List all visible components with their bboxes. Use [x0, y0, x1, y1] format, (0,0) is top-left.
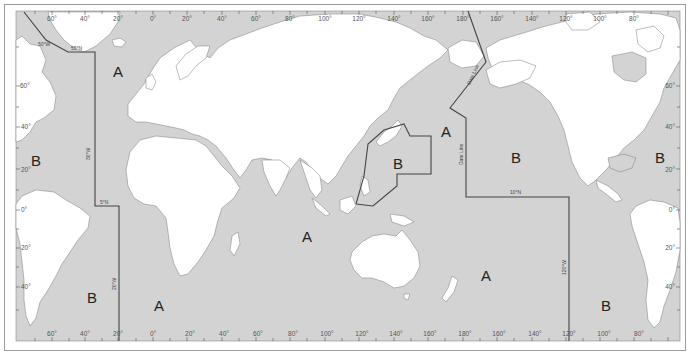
tick-label: 40°	[80, 330, 90, 337]
zone-label: A	[302, 228, 312, 245]
zone-label: A	[113, 63, 123, 80]
tick-label: 60°	[20, 82, 30, 89]
tick-label: 80°	[288, 330, 298, 337]
tick-label: 60°	[665, 82, 675, 89]
tick-label: 140°	[387, 15, 401, 22]
tick-label: 0°	[669, 206, 676, 213]
tick-label: 80°	[285, 15, 295, 22]
tick-label: 20°	[665, 166, 675, 173]
tick-label: 60°	[47, 15, 57, 22]
tick-label: 80°	[629, 15, 639, 22]
label-120w: 120°W	[561, 260, 567, 275]
zone-label: A	[441, 123, 451, 140]
tick-label: 60°	[47, 330, 57, 337]
tick-label: 180°	[458, 330, 472, 337]
tick-label: 80°	[634, 330, 644, 337]
tick-label: 40°	[665, 283, 675, 290]
tick-label: 40°	[21, 123, 31, 130]
tick-label: 100°	[593, 15, 607, 22]
world-map: 55°N 30°W 5°N 20°W Date Line Date Line 1…	[0, 0, 691, 355]
tick-label: 140°	[525, 15, 539, 22]
tick-label: 140°	[528, 330, 542, 337]
tick-label: 180°	[456, 15, 470, 22]
tick-label: 20°	[113, 330, 123, 337]
zone-label: B	[31, 152, 41, 169]
label-30w: 30°W	[85, 147, 91, 160]
zone-label: B	[655, 149, 665, 166]
tick-label: 20°	[185, 330, 195, 337]
zone-label: A	[154, 297, 164, 314]
tick-label: 160°	[490, 15, 504, 22]
tick-label: 0°	[21, 206, 28, 213]
tick-label: 100°	[318, 15, 332, 22]
tick-label: 60°	[253, 330, 263, 337]
tick-label: 0°	[150, 15, 157, 22]
tick-label: 20°	[21, 244, 31, 251]
tick-label: 160°	[423, 330, 437, 337]
tick-label: 20°	[113, 15, 123, 22]
label-5n: 5°N	[100, 199, 109, 205]
label-10n: 10°N	[510, 189, 522, 195]
label-20w: 20°W	[111, 277, 117, 290]
zone-label: B	[601, 297, 611, 314]
tick-label: 40°	[21, 283, 31, 290]
tick-label: 60°	[251, 15, 261, 22]
tick-label: 20°	[665, 244, 675, 251]
tick-label: 0°	[150, 330, 157, 337]
tick-label: 40°	[80, 15, 90, 22]
label-50w: 50°W	[38, 41, 51, 47]
zone-label: A	[481, 267, 491, 284]
tick-label: 40°	[665, 123, 675, 130]
tick-label: 40°	[219, 330, 229, 337]
tick-label: 40°	[217, 15, 227, 22]
tick-label: 120°	[562, 330, 576, 337]
tick-label: 120°	[559, 15, 573, 22]
zone-label: B	[87, 289, 97, 306]
zone-label: B	[393, 155, 403, 172]
tick-label: 120°	[355, 330, 369, 337]
tick-label: 160°	[492, 330, 506, 337]
tick-label: 160°	[421, 15, 435, 22]
tick-label: 100°	[597, 330, 611, 337]
tick-label: 100°	[320, 330, 334, 337]
label-55n: 55°N	[71, 45, 83, 51]
zone-label: B	[511, 149, 521, 166]
tick-label: 20°	[182, 15, 192, 22]
tick-label: 120°	[352, 15, 366, 22]
tick-label: 140°	[389, 330, 403, 337]
label-date-line-lower: Date Line	[458, 143, 464, 165]
tick-label: 20°	[21, 166, 31, 173]
